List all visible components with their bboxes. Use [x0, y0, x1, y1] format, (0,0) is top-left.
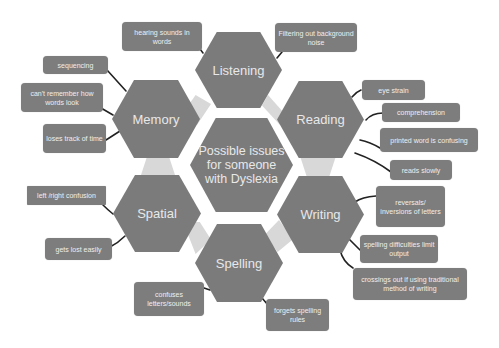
connector-reading-writing: [300, 156, 336, 178]
issue-text: gets lost easily: [56, 245, 102, 254]
hex-center: Possible issues for someone with Dyslexi…: [190, 118, 293, 212]
connector-spatial-memory: [140, 156, 176, 178]
issue-spelling-difficulties: spelling difficulties limit output: [360, 235, 438, 263]
issue-text: left /right confusion: [37, 191, 96, 200]
issue-sequencing: sequencing: [43, 56, 108, 74]
issue-printed-word-confusing: printed word is confusing: [380, 128, 478, 152]
issue-text: confuses letters/sounds: [137, 290, 201, 308]
issue-text: spelling difficulties limit output: [363, 240, 435, 258]
hex-label-spelling: Spelling: [216, 256, 262, 271]
issue-cant-remember-words: can't remember how words look: [21, 83, 103, 112]
issue-crossings-out: crossings out if using traditional metho…: [353, 268, 467, 300]
issue-reads-slowly: reads slowly: [390, 160, 452, 180]
issue-loses-track-of-time: loses track of time: [43, 124, 106, 153]
issue-gets-lost-easily: gets lost easily: [45, 238, 112, 260]
hex-label-reading: Reading: [296, 112, 344, 127]
issue-comprehension: comprehension: [382, 103, 460, 122]
issue-forgets-spelling-rules: forgets spelling rules: [266, 299, 329, 331]
issue-text: can't remember how words look: [24, 89, 100, 107]
issue-text: comprehension: [397, 108, 445, 117]
issue-text: sequencing: [58, 61, 94, 70]
issue-text: Filtering out background noise: [278, 29, 354, 47]
issue-text: hearing sounds in words: [125, 28, 199, 46]
issue-filtering-noise: Filtering out background noise: [275, 23, 357, 52]
issue-text: reads slowly: [402, 166, 441, 175]
issue-text: forgets spelling rules: [269, 306, 326, 324]
hex-spatial: Spatial: [113, 175, 201, 252]
issue-text: crossings out if using traditional metho…: [356, 275, 464, 293]
hex-memory: Memory: [112, 80, 200, 158]
issue-text: loses track of time: [46, 134, 102, 143]
center-label-line-3: with Dyslexia: [205, 172, 278, 186]
hex-label-listening: Listening: [212, 63, 264, 78]
issue-left-right-confusion: left /right confusion: [27, 186, 106, 205]
issue-text: eye strain: [378, 86, 408, 95]
dyslexia-issues-diagram: Listening Memory Reading Possible issues…: [0, 0, 499, 348]
issue-eye-strain: eye strain: [362, 80, 425, 100]
center-label-line-1: Possible issues: [198, 144, 284, 158]
hex-label-writing: Writing: [300, 207, 340, 222]
center-label-line-2: for someone: [207, 158, 276, 172]
issue-reversals-inversions: reversals/ inversions of letters: [376, 186, 445, 227]
issue-hearing-sounds: hearing sounds in words: [122, 22, 202, 51]
issue-confuses-letters-sounds: confuses letters/sounds: [134, 282, 204, 316]
issue-text: printed word is confusing: [390, 136, 467, 145]
hex-label-spatial: Spatial: [137, 206, 177, 221]
hex-reading: Reading: [277, 81, 364, 158]
issue-text: reversals/ inversions of letters: [379, 198, 442, 216]
center-label: Possible issues for someone with Dyslexi…: [198, 144, 284, 186]
hex-label-memory: Memory: [133, 112, 180, 127]
